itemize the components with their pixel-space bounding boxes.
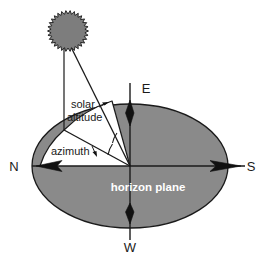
solar-geometry-diagram: N E S W solar altitude azimuth horizon p… — [0, 0, 269, 257]
diagram-canvas: N E S W solar altitude azimuth horizon p… — [0, 0, 269, 257]
compass-label-north: N — [9, 159, 18, 174]
compass-label-east: E — [142, 81, 151, 96]
compass-label-south: S — [247, 159, 256, 174]
azimuth-label: azimuth — [51, 145, 90, 157]
sun-corona — [48, 11, 89, 52]
solar-altitude-label-line2: altitude — [67, 111, 102, 123]
horizon-plane-label: horizon plane — [111, 181, 186, 193]
compass-label-west: W — [124, 240, 137, 255]
solar-altitude-label-line1: solar — [71, 98, 95, 110]
sun-icon — [48, 11, 89, 52]
